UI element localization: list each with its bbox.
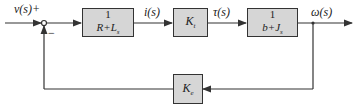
back-emf-block: Ke <box>173 74 203 104</box>
plus-sign: + <box>32 2 40 16</box>
back-emf-gain: Ke <box>182 81 193 97</box>
torque-label: τ(s) <box>213 6 230 18</box>
current-label: i(s) <box>144 6 160 18</box>
torque-constant-block: Kt <box>173 8 208 37</box>
electrical-denominator: R+Ls <box>97 22 120 36</box>
torque-constant-gain: Kt <box>186 14 196 30</box>
minus-sign: − <box>48 27 55 39</box>
electrical-numerator: 1 <box>105 9 111 20</box>
mechanical-block: 1 b+Js <box>247 8 298 37</box>
mechanical-numerator: 1 <box>270 9 276 20</box>
output-label: ω(s) <box>311 6 332 18</box>
electrical-block: 1 R+Ls <box>82 8 134 37</box>
input-label: v(s)+ <box>14 3 40 15</box>
mechanical-denominator: b+Js <box>262 22 283 36</box>
